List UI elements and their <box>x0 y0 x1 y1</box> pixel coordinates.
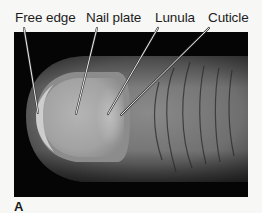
leader-lines <box>0 0 262 213</box>
leader-line-cuticle <box>121 28 209 115</box>
leader-line-free-edge <box>24 28 38 113</box>
panel-letter: A <box>14 199 23 213</box>
leader-line-lunula <box>108 28 158 114</box>
nail-anatomy-figure: Free edge Nail plate Lunula Cuticle <box>0 0 262 213</box>
leader-line-nail-plate <box>76 28 97 114</box>
